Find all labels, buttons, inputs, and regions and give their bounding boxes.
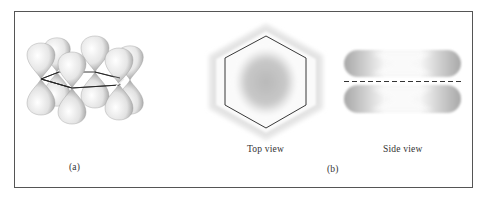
top-view-diagram — [212, 27, 320, 137]
panel-b-label: (b) — [327, 164, 339, 174]
pi-cloud-lower — [344, 85, 461, 113]
panel-a-label: (a) — [69, 162, 80, 172]
pi-cloud-upper — [344, 50, 461, 77]
side-view-caption: Side view — [383, 144, 423, 154]
side-view-diagram — [344, 50, 462, 113]
top-view-caption: Top view — [247, 144, 284, 154]
p-orbitals-diagram — [27, 36, 143, 124]
